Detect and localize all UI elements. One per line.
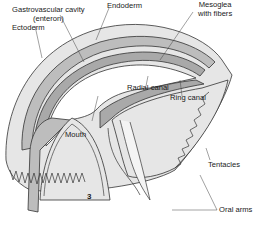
medusa-diagram	[0, 0, 253, 239]
label-ectoderm: Ectoderm	[12, 24, 45, 33]
label-oral-arms: Oral arms	[219, 206, 252, 215]
label-gastrovascular-cavity: Gastrovascular cavity (enteron)	[12, 6, 85, 23]
label-ring-canal: Ring canal	[170, 94, 206, 103]
label-tentacles: Tentacles	[208, 161, 240, 170]
figure-number: 3	[87, 193, 91, 202]
label-radial-canal: Radial canal	[127, 84, 169, 93]
label-mouth: Mouth	[65, 131, 86, 140]
label-mesoglea: Mesoglea with fibers	[198, 1, 232, 18]
label-endoderm: Endoderm	[107, 2, 142, 11]
